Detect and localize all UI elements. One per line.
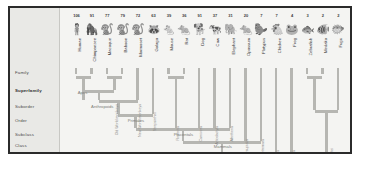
tree-plot-area: 106🧍Human91🦍Chimpanzee77🐒Macaque79🐒Baboo… [60,8,350,152]
species-label-cow: Cow [215,38,220,46]
subclade-label-marsupialia: Marsupialia [245,139,249,154]
branch-vertical [260,74,263,141]
species-label-opossum: Opossum [245,38,250,56]
subclade-label-afrotheria: Afrotheria [230,126,234,142]
branch-vertical [290,74,293,152]
species-label-medaka: Medaka [322,38,327,53]
chimpanzee-icon: 🦍 [84,20,99,35]
baboon-icon: 🐒 [115,20,130,35]
species-label-platypus: Platypus [261,38,266,54]
opossum-icon: 🐀 [238,20,253,35]
phylogenetic-tree-figure: FamilySuperfamilySuborderOrderSubclassCl… [8,6,352,154]
species-label-human: Human [76,38,81,52]
branch-vertical [106,68,109,74]
species-label-dog: Dog [199,38,204,46]
marmoset-icon: 🐒 [131,20,146,35]
chicken-icon: 🐔 [269,20,284,35]
subclade-label-aves: Aves [276,150,280,154]
subclade-label-amphibia: Amphibia [292,150,296,154]
medaka-icon: 🐠 [315,20,330,35]
branch-vertical [183,68,186,74]
branch-vertical [275,74,278,152]
rank-column: FamilySuperfamilySuborderOrderSubclassCl… [10,8,60,152]
branch-vertical [229,74,232,128]
branch-vertical [325,110,328,152]
branch-vertical [321,68,324,74]
branch-vertical [313,76,316,110]
branch-vertical [167,68,170,74]
human-icon: 🧍 [69,20,84,35]
subclade-label-rodentia: Rodentia [176,126,180,140]
species-label-baboon: Baboon [122,38,127,52]
dog-icon: 🐕 [192,20,207,35]
species-label-elephant: Elephant [230,38,235,55]
branch-vertical [98,90,101,100]
galago-icon: 🦝 [146,20,161,35]
macaque-icon: 🐒 [100,20,115,35]
species-label-zebrafish: Zebrafish [307,38,312,55]
rat-icon: 🐀 [177,20,192,35]
branch-vertical [152,74,155,114]
subclade-label-old-world-monkeys: Old World monkeys [115,104,119,135]
species-label-macaque: Macaque [107,38,112,55]
branch-vertical [213,74,216,128]
subclade-label-monotremata: Monotremata [261,139,265,154]
branch-vertical [198,74,201,128]
subclade-label-carnivora: Carnivora [199,126,203,142]
rank-label-suborder: Suborder [15,104,34,109]
elephant-icon: 🐘 [223,20,238,35]
species-label-fugu: Fugu [338,38,343,48]
subclade-label-new-world-monkeys: New World monkeys [138,104,142,137]
mouse-icon: 🐁 [161,20,176,35]
branch-vertical [75,68,78,74]
branch-vertical [136,74,139,100]
clade-label-anthropoids: Anthropoids [91,104,113,109]
rank-label-family: Family [15,70,29,75]
clade-label-apes: Apes [78,90,88,95]
species-label-frog: Frog [292,38,297,47]
species-label-chicken: Chicken [276,38,281,53]
subclade-label-teleostei: Teleostei [330,148,334,154]
branch-vertical [82,76,85,90]
branch-vertical [306,68,309,74]
branch-horizontal [222,152,326,154]
species-label-galago: Galago [153,38,158,52]
frog-icon: 🐸 [285,20,300,35]
rank-label-superfamily: Superfamily [15,88,42,93]
subclade-label-artiodactyla: Artiodactyla [215,126,219,145]
branch-vertical [113,76,116,88]
species-label-chimpanzee: Chimpanzee [91,38,96,62]
rank-label-order: Order [15,118,27,123]
cow-icon: 🐄 [208,20,223,35]
species-label-mouse: Mouse [168,38,173,51]
branch-vertical [244,74,247,141]
genome-count-fugu: 2 [330,13,347,18]
branch-vertical [175,104,178,128]
branch-vertical [121,68,124,74]
branch-vertical [337,74,340,110]
platypus-icon: 🦫 [254,20,269,35]
subclade-label-strepsirrhini: Strepsirrhini [153,112,157,131]
rank-label-subclass: Subclass [15,132,34,137]
branch-vertical [90,68,93,74]
rank-label-class: Class [15,143,27,148]
species-label-rat: Rat [184,38,189,45]
fugu-icon: 🐡 [331,20,346,35]
species-label-marmoset: Marmoset [138,38,143,57]
branch-vertical [113,88,116,90]
branch-vertical [175,76,178,104]
zebrafish-icon: 🐟 [300,20,315,35]
